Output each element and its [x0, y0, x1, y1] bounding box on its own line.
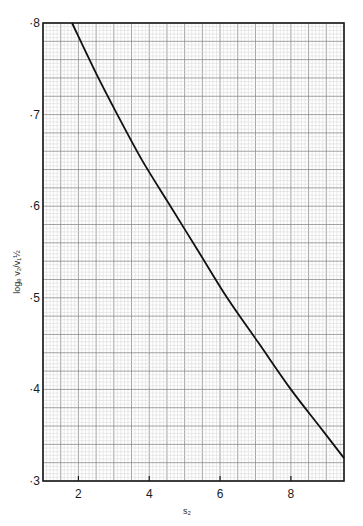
y-tick-label: ·3	[29, 474, 40, 488]
x-tick-label: 2	[75, 487, 82, 501]
chart: ·3·4·5·6·7·8 2468 logₑ v₂/v₁½ s₂	[0, 0, 363, 526]
y-tick-label: ·6	[29, 199, 40, 213]
y-tick-label: ·4	[29, 382, 40, 396]
y-tick-label: ·5	[29, 291, 40, 305]
y-tick-label: ·8	[29, 16, 40, 30]
x-tick-label: 8	[288, 487, 295, 501]
y-tick-label: ·7	[29, 108, 40, 122]
y-axis-label: logₑ v₂/v₁½	[12, 250, 22, 294]
x-tick-label: 4	[146, 487, 153, 501]
x-tick-label: 6	[217, 487, 224, 501]
x-axis-label: s₂	[183, 506, 192, 516]
